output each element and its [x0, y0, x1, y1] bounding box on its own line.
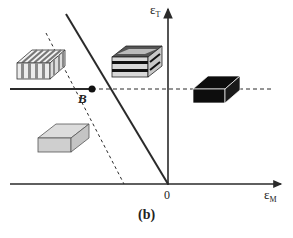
point-b-marker: [89, 86, 96, 93]
phase-diagram: εT εM 0 B (b): [0, 0, 293, 238]
x-axis-label: εM: [264, 188, 277, 204]
axes: [10, 9, 281, 185]
y-axis-label: εT: [150, 3, 160, 19]
striped-block-icon: [17, 50, 65, 79]
black-block-icon: [193, 76, 240, 103]
gray-block-icon: [38, 124, 89, 152]
figure-caption: (b): [138, 208, 155, 222]
diagram-graphics: [0, 0, 293, 238]
point-b-label: B: [78, 92, 87, 105]
layered-block-icon: [112, 46, 162, 77]
origin-label: 0: [164, 189, 170, 201]
